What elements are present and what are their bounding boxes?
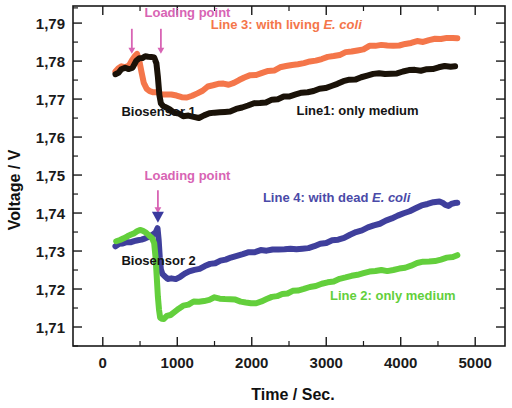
x-tick-label: 3000 <box>310 354 343 371</box>
line1-label: Line1: only medium <box>296 103 418 118</box>
line4-label: Line 4: with dead E. coli <box>263 190 411 205</box>
x-axis-title: Time / Sec. <box>251 386 334 403</box>
y-tick-label: 1,78 <box>36 53 65 70</box>
y-tick-label: 1,76 <box>36 129 65 146</box>
y-tick-label: 1,74 <box>36 205 66 222</box>
y-tick-label: 1,71 <box>36 319 65 336</box>
y-tick-label: 1,77 <box>36 91 65 108</box>
line3-label: Line 3: with living E. coli <box>211 17 362 32</box>
y-axis-title: Voltage / V <box>6 149 23 230</box>
loading-point-bottom: Loading point <box>145 168 232 183</box>
x-tick-label: 2000 <box>235 354 268 371</box>
biosensor-2: Biosensor 2 <box>121 253 195 268</box>
x-tick-label: 1000 <box>161 354 194 371</box>
x-tick-label: 4000 <box>384 354 417 371</box>
biosensor-voltage-chart: 1,711,721,731,741,751,761,771,781,79 010… <box>0 0 512 408</box>
y-tick-label: 1,79 <box>36 15 65 32</box>
biosensor-1: Biosensor 1 <box>121 104 195 119</box>
y-tick-label: 1,75 <box>36 167 65 184</box>
line2-label: Line 2: only medium <box>330 288 456 303</box>
x-tick-label: 0 <box>99 354 107 371</box>
y-tick-label: 1,73 <box>36 243 65 260</box>
x-tick-label: 5000 <box>459 354 492 371</box>
chart-canvas: 1,711,721,731,741,751,761,771,781,79 010… <box>0 0 512 408</box>
y-tick-label: 1,72 <box>36 281 65 298</box>
